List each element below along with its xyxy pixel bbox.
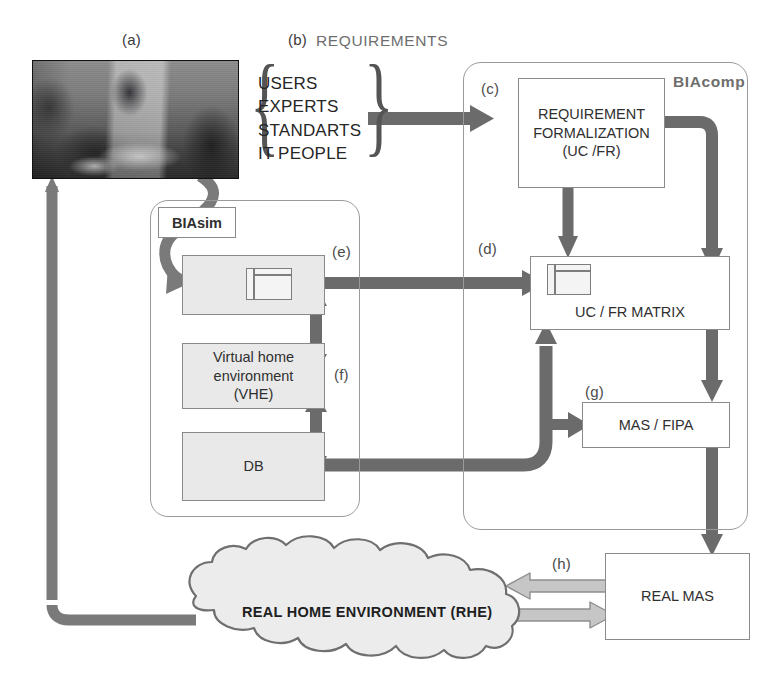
arrow-realmas-to-rhe	[506, 573, 610, 599]
arrow-rhe-to-realmas	[508, 602, 614, 628]
mas-fipa-box[interactable]: MAS / FIPA	[582, 402, 730, 448]
rhe-label: REAL HOME ENVIRONMENT (RHE)	[242, 604, 492, 620]
requirement-formalization-box[interactable]: REQUIREMENT FORMALIZATION (UC /FR)	[518, 78, 665, 188]
window-icon-matrix	[547, 264, 591, 295]
label-b: (b)	[288, 31, 307, 48]
window-icon	[246, 268, 292, 300]
rf-line-2: FORMALIZATION	[533, 124, 650, 143]
requirements-list: USERS EXPERTS STANDARTS IT PEOPLE	[258, 72, 361, 166]
vhe-box[interactable]: Virtual home environment (VHE)	[182, 343, 325, 409]
rf-line-1: REQUIREMENT	[538, 105, 645, 124]
diagram-canvas: (a) (b) REQUIREMENTS { } USERS EXPERTS S…	[0, 0, 784, 697]
real-home-environment-cloud	[189, 536, 519, 658]
label-g: (g)	[585, 383, 604, 400]
vhe-line-1: Virtual home	[213, 348, 294, 367]
label-h: (h)	[552, 555, 571, 572]
label-d: (d)	[478, 240, 497, 257]
label-f: (f)	[334, 366, 349, 383]
label-e: (e)	[332, 243, 351, 260]
real-mas-box[interactable]: REAL MAS	[605, 553, 750, 640]
vhe-line-2: environment	[214, 367, 294, 386]
label-a: (a)	[122, 31, 141, 48]
db-box[interactable]: DB	[182, 432, 325, 501]
label-c: (c)	[481, 80, 499, 97]
vhe-line-3: (VHE)	[234, 385, 273, 404]
biasim-label: BIAsim	[158, 207, 236, 238]
rf-line-3: (UC /FR)	[563, 142, 621, 161]
brace-right-icon: }	[364, 48, 394, 160]
biacomp-label: BIAcomp	[673, 73, 745, 91]
meeting-photo	[32, 60, 239, 179]
